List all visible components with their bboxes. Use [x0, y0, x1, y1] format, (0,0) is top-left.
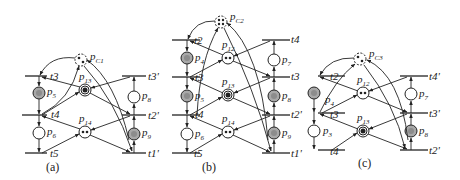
svg-text:p7: p7 — [418, 87, 429, 102]
place-p8 — [128, 91, 140, 103]
transition-label: t1' — [148, 147, 160, 159]
transition-label: t4 — [51, 108, 60, 120]
place-p14 — [79, 126, 91, 138]
svg-text:p3: p3 — [322, 124, 333, 139]
transition-label: t3' — [148, 70, 160, 82]
control-place-pc1: pC1 — [75, 50, 104, 66]
svg-text:p9: p9 — [281, 126, 292, 141]
caption-c: (c) — [358, 156, 371, 170]
svg-text:t3: t3 — [291, 70, 300, 82]
place-label: p5 — [46, 85, 57, 100]
place-p6 — [33, 127, 45, 139]
caption-b: (b) — [202, 160, 216, 174]
svg-text:t4: t4 — [291, 33, 300, 45]
svg-text:p6: p6 — [194, 127, 205, 142]
petri-net-figure: pC1 t3 t4 t5 p5 p6 p13 p14 t3' t2' — [0, 0, 460, 180]
svg-text:t4': t4' — [429, 70, 441, 82]
svg-text:t2': t2' — [429, 144, 441, 156]
svg-text:t1': t1' — [291, 147, 303, 159]
place-label: p8 — [141, 89, 152, 104]
svg-text:t5: t5 — [194, 147, 203, 159]
svg-text:p13: p13 — [221, 75, 235, 90]
control-place-pc3: pC3 — [354, 47, 383, 65]
place-label: p6 — [46, 125, 57, 140]
svg-text:p7: p7 — [281, 53, 292, 68]
pc2-label: pC2 — [229, 10, 244, 25]
svg-text:p4: p4 — [194, 51, 205, 66]
transition-label: t2' — [148, 109, 160, 121]
svg-text:t2: t2 — [330, 70, 339, 82]
place-label: p14 — [78, 112, 92, 127]
transition-label: t5 — [50, 147, 59, 159]
panel-c: pC3 t2 t3 t4 p4 p3 p12 p13 t4' t3' t2' — [308, 47, 441, 170]
panel-a: pC1 t3 t4 t5 p5 p6 p13 p14 t3' t2' — [22, 50, 160, 174]
svg-text:p13: p13 — [356, 111, 370, 126]
svg-text:p14: p14 — [221, 112, 235, 127]
svg-text:p12: p12 — [356, 73, 370, 88]
place-label: p9 — [141, 126, 152, 141]
panel-b: pC2 t2 t3 t4 t5 p4 p5 p6 p12 p13 — [172, 10, 303, 174]
svg-text:p8: p8 — [281, 89, 292, 104]
svg-text:t3': t3' — [429, 107, 441, 119]
svg-text:t4: t4 — [330, 145, 339, 157]
caption-a: (a) — [46, 160, 59, 174]
svg-text:t2': t2' — [291, 108, 303, 120]
svg-text:p8: p8 — [418, 124, 429, 139]
svg-text:pC3: pC3 — [368, 47, 383, 62]
